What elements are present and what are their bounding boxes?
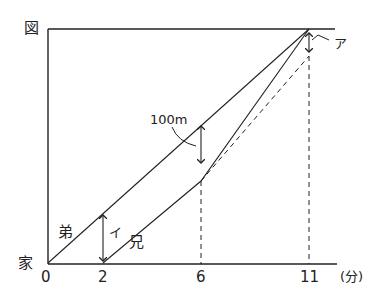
- younger-brother-label: 弟: [58, 225, 73, 240]
- label-100m: 100m: [150, 113, 187, 126]
- x-axis-unit: (分): [340, 270, 363, 283]
- x-tick-11: 11: [300, 270, 319, 285]
- leader-a: [312, 35, 329, 40]
- x-tick-0: 0: [41, 270, 51, 285]
- label-a: ア: [334, 37, 347, 50]
- younger-brother-line: [48, 29, 309, 263]
- figure-title: 図: [24, 21, 39, 36]
- older-brother-label: 兄: [129, 235, 144, 250]
- older-brother-line: [103, 29, 309, 263]
- x-tick-2: 2: [98, 270, 108, 285]
- distance-time-diagram: [0, 0, 380, 306]
- label-i: イ: [109, 226, 122, 239]
- leader-100m: [172, 127, 196, 146]
- dashed-continuation-line: [201, 56, 309, 181]
- x-tick-6: 6: [196, 270, 206, 285]
- home-label: 家: [18, 256, 33, 271]
